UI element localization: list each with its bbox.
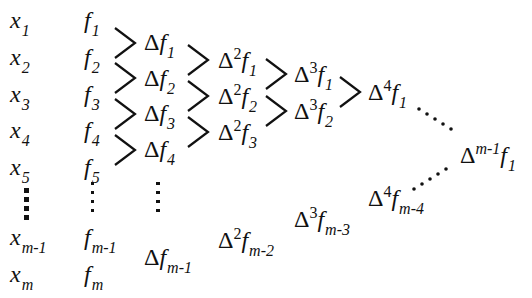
delta3-fm3-term: Δ3fm-3	[294, 207, 350, 231]
fm-term: fm	[84, 262, 103, 286]
delta4-f1-term: Δ4f1	[368, 80, 407, 104]
f3-term: f3	[84, 82, 100, 106]
fm1-term: fm-1	[84, 225, 117, 249]
delta2-fm2-term: Δ2fm-2	[218, 228, 274, 252]
chevron-connector	[266, 96, 288, 126]
f4-term: f4	[84, 118, 100, 142]
delta-f-vertical-ellipsis	[156, 182, 162, 212]
chevron-connector	[115, 135, 137, 165]
chevron-connector	[188, 45, 210, 75]
x4-term: x4	[10, 118, 30, 142]
f1-term: f1	[84, 8, 100, 32]
x5-term: x5	[10, 155, 30, 179]
x-vertical-ellipsis	[24, 188, 30, 220]
delta2-f2-term: Δ2f2	[218, 84, 257, 108]
delta-f4-term: Δf4	[144, 137, 175, 161]
f5-term: f5	[84, 155, 100, 179]
chevron-connector	[188, 81, 210, 111]
delta-m1-f1-term: Δm-1f1	[460, 143, 516, 167]
delta3-f1-term: Δ3f1	[294, 62, 333, 86]
delta-f1-term: Δf1	[144, 30, 175, 54]
delta-fm1-term: Δfm-1	[144, 245, 192, 269]
chevron-connector	[115, 63, 137, 93]
delta2-f1-term: Δ2f1	[218, 48, 257, 72]
delta-f3-term: Δf3	[144, 101, 175, 125]
f2-term: f2	[84, 45, 100, 69]
chevron-connector	[115, 99, 137, 129]
chevron-connector	[340, 77, 362, 107]
f-vertical-ellipsis	[91, 182, 97, 212]
delta3-f2-term: Δ3f2	[294, 99, 333, 123]
delta2-f3-term: Δ2f3	[218, 120, 257, 144]
xm-term: xm	[10, 262, 33, 286]
chevron-connector	[188, 117, 210, 147]
diagonal-ellipsis-upper	[415, 105, 455, 145]
chevron-connector	[115, 28, 137, 58]
diagonal-ellipsis-lower	[410, 165, 450, 205]
delta-f2-term: Δf2	[144, 66, 175, 90]
x1-term: x1	[10, 8, 30, 32]
x3-term: x3	[10, 82, 30, 106]
chevron-connector	[266, 59, 288, 89]
x2-term: x2	[10, 45, 30, 69]
xm1-term: xm-1	[10, 225, 47, 249]
